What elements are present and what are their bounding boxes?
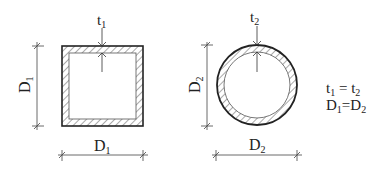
t1-label: t1	[97, 12, 106, 30]
equation-diameter: D1=D2	[326, 97, 366, 118]
t2-label: t2	[250, 9, 259, 27]
d1-vertical-dimension	[32, 42, 44, 130]
d2-vertical-label: D2	[186, 76, 205, 93]
square-wall-hatch	[62, 46, 143, 126]
eq2-right: D	[350, 97, 361, 113]
eq2-left: D	[326, 97, 337, 113]
square-outer-edge	[62, 46, 143, 126]
d1-horizontal-label: D1	[94, 137, 111, 156]
eq1-operator: =	[335, 80, 351, 96]
square-section: t1 D1 D1	[16, 12, 148, 161]
circular-section: t2 D2 D2	[186, 9, 302, 161]
d2-horizontal-label: D2	[249, 136, 266, 155]
square-inner-edge	[69, 53, 136, 119]
d1-vertical-label: D1	[16, 76, 35, 93]
eq2-right-sub: 2	[361, 104, 366, 115]
